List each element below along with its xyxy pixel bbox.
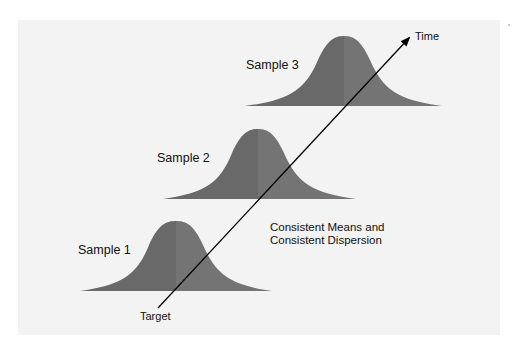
time-label: Time (415, 31, 439, 42)
edge-mark (508, 24, 510, 26)
annotation-line-1: Consistent Means and (270, 221, 384, 234)
target-label: Target (140, 311, 171, 322)
sample-2-label: Sample 2 (157, 152, 210, 165)
sample-1-label: Sample 1 (78, 244, 131, 257)
annotation-line-2: Consistent Dispersion (270, 234, 384, 247)
annotation: Consistent Means and Consistent Dispersi… (270, 221, 384, 247)
sample-3-label: Sample 3 (246, 59, 299, 72)
distribution-diagram (0, 0, 517, 352)
time-arrow (158, 38, 409, 308)
